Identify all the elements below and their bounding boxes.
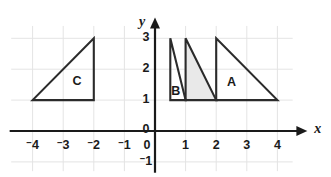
y-tick-label-2: 2 bbox=[143, 61, 150, 75]
shape-label-c: C bbox=[72, 74, 81, 88]
x-tick-label-neg3: −3 bbox=[57, 137, 70, 153]
x-tick-label-neg4: −4 bbox=[26, 137, 39, 153]
x-tick-label-2: 2 bbox=[213, 138, 220, 152]
coordinate-plane-figure: xy ABC −4−3−2−1012343210−1 bbox=[0, 0, 331, 177]
shape-label-a: A bbox=[227, 75, 236, 89]
x-tick-label-3: 3 bbox=[243, 138, 250, 152]
x-tick-label-1: 1 bbox=[182, 138, 189, 152]
coordinate-plane-svg: xy ABC −4−3−2−1012343210−1 bbox=[0, 0, 331, 177]
grid-layer bbox=[11, 26, 293, 171]
x-tick-label-0: 0 bbox=[144, 138, 151, 152]
y-tick-label-0: 0 bbox=[143, 122, 150, 136]
shape-label-b: B bbox=[171, 84, 180, 98]
y-axis-arrowhead bbox=[150, 17, 160, 28]
y-tick-label-3: 3 bbox=[143, 31, 150, 45]
y-tick-label-neg1: −1 bbox=[140, 152, 153, 168]
y-axis-name: y bbox=[137, 14, 146, 29]
x-tick-label-neg1: −1 bbox=[118, 137, 131, 153]
x-tick-label-neg2: −2 bbox=[88, 137, 101, 153]
x-axis-name: x bbox=[313, 121, 321, 136]
x-tick-label-4: 4 bbox=[274, 138, 281, 152]
x-axis-arrowhead bbox=[296, 126, 307, 136]
y-tick-label-1: 1 bbox=[143, 92, 150, 106]
